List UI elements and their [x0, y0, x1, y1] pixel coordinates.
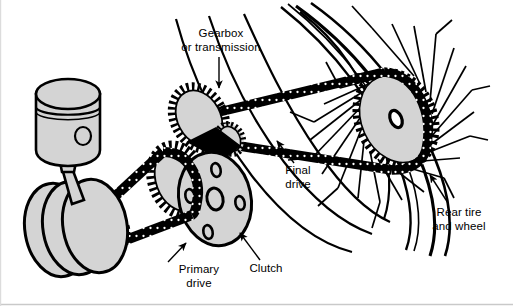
label-final-drive-line1: Final [272, 164, 324, 178]
label-final-drive-line2: drive [272, 178, 324, 192]
label-clutch-line1: Clutch [241, 262, 291, 276]
label-primary-drive-line2: drive [168, 277, 230, 291]
label-gearbox: Gearbox or transmission [160, 27, 282, 54]
label-clutch: Clutch [241, 262, 291, 276]
leader-clutch [240, 233, 260, 260]
label-rear-wheel-line1: Rear tire [414, 206, 504, 220]
piston [36, 79, 100, 166]
label-final-drive: Final drive [272, 164, 324, 191]
label-gearbox-line2: or transmission [160, 41, 282, 55]
label-rear-wheel: Rear tire and wheel [414, 206, 504, 233]
label-primary-drive: Primary drive [168, 263, 230, 290]
label-gearbox-line1: Gearbox [160, 27, 282, 41]
label-rear-wheel-line2: and wheel [414, 220, 504, 234]
diagram-page: Gearbox or transmission Final drive Rear… [0, 0, 513, 306]
label-primary-drive-line1: Primary [168, 263, 230, 277]
leader-primary-drive [168, 243, 186, 262]
wrist-pin-hole [75, 127, 91, 145]
